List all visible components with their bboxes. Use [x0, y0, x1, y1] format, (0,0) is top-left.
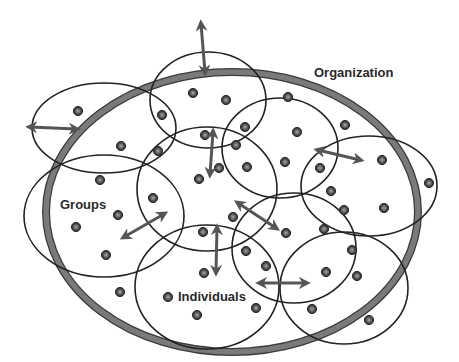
individual-dot	[315, 163, 324, 172]
individual-dot	[379, 203, 388, 212]
individual-dot	[157, 110, 166, 119]
individual-dot	[163, 292, 172, 301]
individual-dot	[200, 130, 209, 139]
double-arrow-icon	[210, 132, 213, 174]
individual-dot	[95, 175, 104, 184]
individual-dot	[339, 205, 348, 214]
individual-dot	[321, 267, 330, 276]
individual-dot	[377, 155, 386, 164]
individual-dot	[116, 141, 125, 150]
individual-dot	[71, 222, 80, 231]
double-arrow-icon	[201, 24, 205, 72]
individual-dot	[292, 127, 301, 136]
individual-dot	[352, 271, 361, 280]
individual-dot	[240, 122, 249, 131]
individual-dot	[307, 304, 316, 313]
individual-dot	[199, 268, 208, 277]
individual-dot	[424, 178, 433, 187]
organization-label: Organization	[314, 66, 393, 79]
individual-dot	[319, 224, 328, 233]
individual-dot	[280, 157, 289, 166]
individual-dot	[228, 212, 237, 221]
individual-dot	[192, 310, 201, 319]
organization-diagram	[0, 0, 459, 362]
individual-dot	[251, 303, 260, 312]
individual-dot	[214, 163, 223, 172]
double-arrow-icon	[318, 150, 360, 160]
individual-dot	[113, 210, 122, 219]
individual-dot	[326, 186, 335, 195]
group-circle-8	[135, 225, 279, 349]
individual-dot	[198, 227, 207, 236]
individual-dot	[194, 174, 203, 183]
interaction-arrows	[30, 24, 360, 283]
individual-dot	[115, 287, 124, 296]
groups-label: Groups	[60, 198, 106, 211]
double-arrow-icon	[30, 127, 76, 129]
individual-dot	[261, 261, 270, 270]
individual-dot	[347, 245, 356, 254]
individual-dot	[241, 246, 250, 255]
individual-dot	[148, 193, 157, 202]
individual-dot	[364, 315, 373, 324]
individual-dot	[153, 146, 162, 155]
individual-dot	[101, 250, 110, 259]
individuals-label: Individuals	[178, 290, 246, 303]
individual-dot	[221, 95, 230, 104]
individual-dot	[340, 120, 349, 129]
individual-dot	[281, 228, 290, 237]
individual-dot	[231, 140, 240, 149]
individual-dot	[188, 88, 197, 97]
individual-dot	[73, 106, 82, 115]
individual-dot	[242, 162, 251, 171]
double-arrow-icon	[216, 228, 217, 272]
individual-dot	[283, 92, 292, 101]
